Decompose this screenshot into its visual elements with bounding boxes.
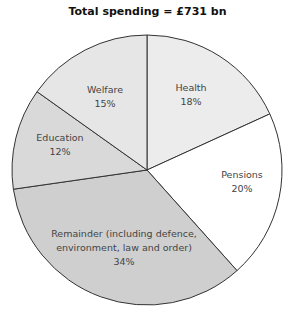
label-pensions-pct: 20% [231,183,252,194]
label-welfare: Welfare [87,84,123,95]
label-remainder-line2: environment, law and order) [56,242,192,253]
label-remainder-pct: 34% [113,256,134,267]
label-education: Education [36,132,83,143]
label-health: Health [175,82,206,93]
label-pensions: Pensions [221,169,263,180]
label-remainder-line1: Remainder (including defence, [51,228,197,239]
pie-chart: Health 18% Pensions 20% Remainder (inclu… [0,0,295,320]
label-welfare-pct: 15% [94,98,115,109]
label-health-pct: 18% [180,96,201,107]
label-education-pct: 12% [49,146,70,157]
